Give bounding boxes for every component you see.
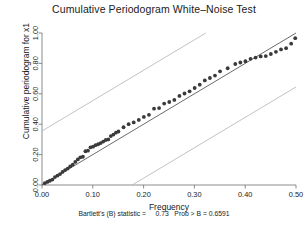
data-point (117, 130, 121, 134)
lower-confidence-band (132, 87, 296, 185)
data-point (203, 79, 207, 83)
data-point (264, 54, 268, 58)
data-point (293, 36, 297, 40)
data-point (279, 48, 283, 52)
y-axis-label-wrapper: Cumulative periodogram for x1 (15, 11, 33, 151)
data-point (81, 155, 85, 159)
data-point (208, 76, 212, 80)
data-point (284, 46, 288, 50)
data-point (132, 120, 136, 124)
data-point (244, 59, 248, 63)
data-point (183, 92, 187, 96)
data-point (122, 125, 126, 129)
data-point (213, 74, 217, 78)
data-point (106, 138, 110, 142)
data-point (259, 55, 263, 59)
reference-line (42, 33, 296, 185)
data-point (152, 107, 156, 111)
y-axis-label: Cumulative periodogram for x1 (21, 23, 31, 139)
data-point (188, 89, 192, 93)
data-point (162, 102, 166, 106)
data-point (167, 100, 171, 104)
data-point (274, 50, 278, 54)
data-point (147, 113, 151, 117)
data-point (142, 115, 146, 119)
plot-canvas: 0.000.100.200.300.400.500.000.200.400.60… (0, 0, 308, 228)
data-point (226, 66, 230, 70)
data-point (249, 57, 253, 61)
upper-confidence-band (42, 33, 206, 131)
data-point (86, 149, 90, 153)
y-tick-label: 0.00 (31, 178, 40, 192)
data-point (198, 83, 202, 87)
data-point (157, 106, 161, 110)
data-point (127, 122, 131, 126)
data-point (172, 98, 176, 102)
data-point (238, 61, 242, 65)
data-point (218, 69, 222, 73)
data-point (178, 94, 182, 98)
bartlett-statistic-note: Bartlett's (B) statistic = 0.73 Prob > B… (0, 210, 308, 217)
cumulative-periodogram-chart: Cumulative Periodogram White–Noise Test … (0, 0, 308, 228)
data-point (137, 118, 141, 122)
data-point (254, 56, 258, 60)
data-point (233, 62, 237, 66)
data-point (193, 86, 197, 90)
data-point (289, 42, 293, 46)
data-point (269, 52, 273, 56)
